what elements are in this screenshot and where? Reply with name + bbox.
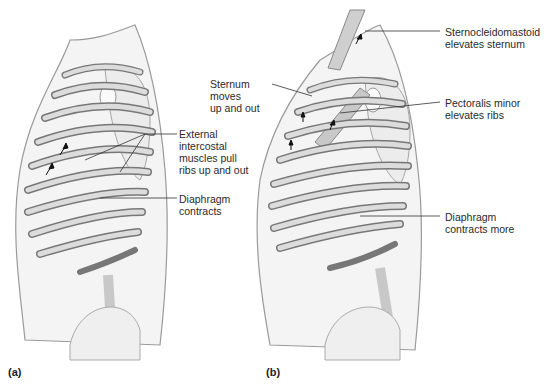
ribcage-illustration-a xyxy=(0,0,280,387)
label-diaphragm-contracts: Diaphragm contracts xyxy=(179,193,230,217)
label-external-intercostal: External intercostal muscles pull ribs u… xyxy=(179,128,248,176)
label-pectoralis-minor: Pectoralis minor elevates ribs xyxy=(445,97,520,121)
panel-a-quiet-inspiration: External intercostal muscles pull ribs u… xyxy=(0,0,280,387)
ribcage-illustration-b xyxy=(240,0,559,387)
panel-b-forced-inspiration: Sternocleidomastoid elevates sternum Ste… xyxy=(240,0,559,387)
panel-letter-a: (a) xyxy=(8,366,21,378)
label-sternocleidomastoid: Sternocleidomastoid elevates sternum xyxy=(445,26,540,50)
panel-letter-b: (b) xyxy=(266,366,280,378)
label-diaphragm-contracts-more: Diaphragm contracts more xyxy=(445,211,514,235)
label-sternum-moves: Sternum moves up and out xyxy=(210,78,260,114)
